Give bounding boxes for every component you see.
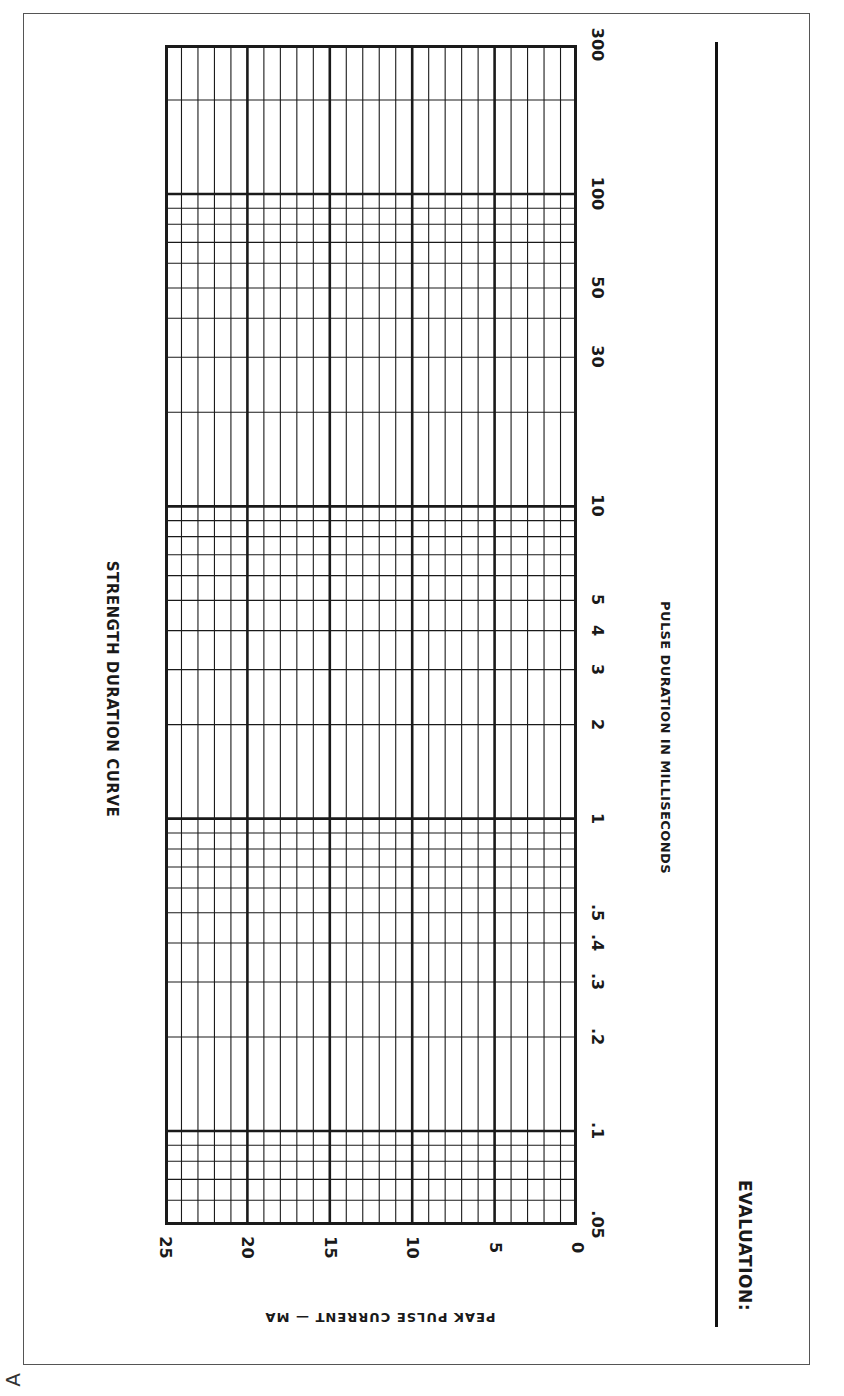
current-tick-label: 10 (403, 1228, 422, 1268)
current-tick-label: 25 (156, 1228, 175, 1268)
x-axis-label: PULSE DURATION IN MILLISECONDS (658, 588, 673, 888)
evaluation-label: EVALUATION: (735, 1180, 755, 1310)
duration-tick-label: 5 (588, 580, 607, 620)
current-tick-label: 15 (320, 1228, 339, 1268)
figure-letter: A (1, 1373, 25, 1387)
duration-tick-label: .05 (588, 1205, 607, 1245)
duration-tick-label: 10 (588, 486, 607, 526)
duration-tick-label: .1 (588, 1110, 607, 1150)
duration-tick-label: .2 (588, 1016, 607, 1056)
duration-tick-label: 100 (588, 174, 607, 214)
plot-grid (165, 45, 577, 1225)
grid-lines (165, 45, 577, 1225)
duration-tick-label: .3 (588, 961, 607, 1001)
duration-tick-label: 50 (588, 268, 607, 308)
y-axis-label: PEAK PULSE CURRENT — MA (250, 1310, 510, 1325)
duration-tick-label: 300 (588, 25, 607, 65)
chart-title: STRENGTH DURATION CURVE (103, 559, 121, 819)
duration-tick-label: 2 (588, 704, 607, 744)
current-tick-label: 20 (238, 1228, 257, 1268)
current-tick-label: 0 (568, 1228, 587, 1268)
duration-tick-label: 3 (588, 649, 607, 689)
current-tick-label: 5 (485, 1228, 504, 1268)
evaluation-line (715, 42, 718, 1327)
duration-tick-label: 1 (588, 798, 607, 838)
duration-tick-label: 30 (588, 337, 607, 377)
duration-tick-label: .5 (588, 892, 607, 932)
